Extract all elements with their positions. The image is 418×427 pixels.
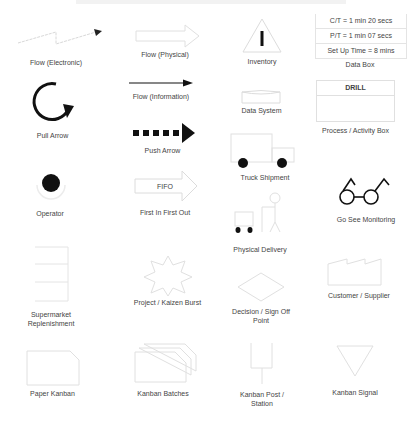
cylinder-icon — [241, 89, 281, 105]
label-physical-delivery: Physical Delivery — [230, 245, 290, 254]
label-supermarket: Supermarket Replenishment — [18, 310, 84, 328]
process-box-header: DRILL — [317, 81, 394, 96]
data-box-row: C/T = 1 min 20 secs — [316, 14, 406, 29]
label-pull-arrow: Pull Arrow — [25, 131, 80, 140]
post-icon — [250, 342, 274, 386]
hollow-arrow-icon — [135, 24, 201, 48]
label-kaizen: Project / Kaizen Burst — [125, 298, 210, 307]
label-data-box: Data Box — [330, 60, 390, 69]
label-process-box: Process / Activity Box — [313, 126, 398, 135]
process-activity-box: DRILL — [316, 80, 395, 122]
label-data-system: Data System — [234, 106, 289, 115]
burst-icon — [143, 255, 193, 297]
label-paper-kanban: Paper Kanban — [25, 389, 80, 398]
fifo-text: FIFO — [150, 182, 180, 191]
operator-icon — [34, 171, 68, 205]
label-flow-physical: Flow (Physical) — [130, 50, 200, 59]
label-flow-electronic: Flow (Electronic) — [16, 58, 96, 67]
circular-arrow-icon — [30, 80, 74, 124]
line-arrow-icon — [129, 79, 193, 87]
cropped-header-band — [76, 0, 346, 4]
triangle-i-icon — [242, 18, 282, 54]
label-fifo: First In First Out — [130, 208, 200, 217]
label-kanban-batches: Kanban Batches — [133, 389, 193, 398]
supermarket-icon — [34, 246, 70, 302]
label-customer: Customer / Supplier — [320, 291, 398, 300]
inverted-triangle-icon — [336, 345, 374, 377]
dashed-bold-arrow-icon — [133, 122, 197, 144]
label-go-see: Go See Monitoring — [326, 215, 406, 224]
stacked-kanban-icon — [134, 343, 198, 383]
kanban-card-icon — [26, 350, 80, 386]
data-box-row: P/T = 1 min 07 secs — [316, 29, 406, 44]
diamond-icon — [237, 272, 285, 302]
data-box: C/T = 1 min 20 secs P/T = 1 min 07 secs … — [315, 14, 407, 59]
label-decision: Decision / Sign Off Point — [228, 307, 294, 325]
data-box-row: Set Up Time = 8 mins — [316, 44, 406, 59]
truck-icon — [230, 133, 296, 169]
label-inventory: Inventory — [237, 57, 287, 66]
lightning-arrow-icon — [16, 27, 98, 47]
label-operator: Operator — [25, 209, 75, 218]
label-push-arrow: Push Arrow — [135, 146, 190, 155]
label-flow-information: Flow (Information) — [128, 92, 194, 101]
glasses-icon — [334, 175, 396, 205]
label-truck-shipment: Truck Shipment — [235, 173, 295, 182]
cart-person-icon — [232, 192, 284, 236]
label-kanban-signal: Kanban Signal — [325, 388, 385, 397]
label-kanban-post: Kanban Post / Station — [232, 390, 292, 408]
factory-icon — [327, 256, 383, 286]
